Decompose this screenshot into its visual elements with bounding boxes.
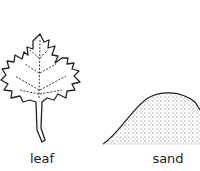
leaf-illustration (0, 28, 86, 150)
sand-pile-icon (100, 88, 200, 148)
sand-illustration (100, 88, 200, 148)
sand-label: sand (138, 151, 198, 167)
leaf-label: leaf (12, 151, 72, 167)
leaf-icon (0, 28, 86, 150)
